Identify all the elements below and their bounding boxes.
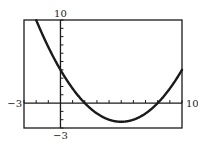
y-min-label: −3 [53, 130, 68, 141]
x-max-label: 10 [186, 98, 198, 109]
parabola-curve [36, 20, 182, 122]
y-max-label: 10 [54, 8, 67, 19]
axis-ticks [24, 20, 182, 128]
x-min-label: −3 [7, 98, 22, 109]
viewing-window-frame [24, 20, 182, 128]
function-graph: 10 −3 −3 10 [0, 0, 198, 141]
